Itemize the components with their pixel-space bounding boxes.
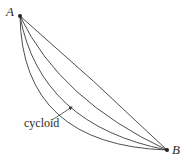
brachistochrone-diagram: A B cycloid (0, 0, 192, 164)
point-b-label: B (172, 143, 180, 156)
point-a-label: A (6, 5, 14, 18)
curves-canvas (0, 0, 192, 164)
point-b-dot (165, 148, 169, 152)
cycloid-label: cycloid (24, 117, 59, 129)
point-a-dot (18, 14, 22, 18)
